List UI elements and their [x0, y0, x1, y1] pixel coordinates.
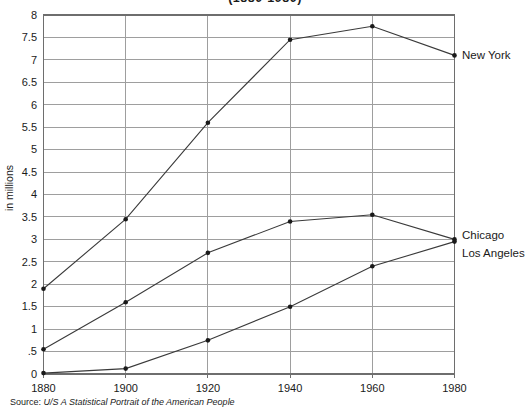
data-point-marker — [206, 251, 211, 256]
series-label: New York — [462, 48, 511, 62]
y-tick-label: 1.5 — [22, 300, 37, 312]
x-tick-label: 1960 — [360, 382, 384, 394]
data-point-marker — [370, 24, 375, 29]
data-point-marker — [452, 53, 457, 58]
data-point-marker — [288, 304, 293, 309]
y-tick-label: 3 — [31, 233, 37, 245]
line-chart-plot: 0.511.522.533.544.555.566.577.5818801900… — [0, 0, 527, 412]
data-point-marker — [123, 217, 128, 222]
series-line — [44, 26, 455, 289]
y-tick-label: 4 — [31, 188, 37, 200]
y-tick-label: 7 — [31, 54, 37, 66]
y-tick-label: .5 — [28, 345, 37, 357]
source-note: Source: U/S A Statistical Portrait of th… — [10, 397, 235, 407]
y-tick-label: 5.5 — [22, 121, 37, 133]
data-point-marker — [41, 286, 46, 291]
y-tick-label: 0 — [31, 368, 37, 380]
data-point-marker — [206, 120, 211, 125]
y-tick-label: 8 — [31, 9, 37, 21]
source-prefix: Source: — [10, 397, 41, 407]
data-point-marker — [288, 37, 293, 42]
y-tick-label: 4.5 — [22, 166, 37, 178]
x-tick-label: 1900 — [113, 382, 137, 394]
series-label: Chicago — [462, 228, 504, 242]
chart-figure: (1880-1980) in millions 0.511.522.533.54… — [0, 0, 527, 412]
series-label: Los Angeles — [462, 246, 525, 260]
data-point-marker — [452, 239, 457, 244]
data-point-marker — [206, 338, 211, 343]
y-tick-label: 2.5 — [22, 256, 37, 268]
y-tick-label: 3.5 — [22, 211, 37, 223]
data-point-marker — [288, 219, 293, 224]
data-point-marker — [370, 212, 375, 217]
y-tick-label: 1 — [31, 323, 37, 335]
data-point-marker — [41, 371, 46, 376]
data-point-marker — [123, 366, 128, 371]
y-tick-label: 6.5 — [22, 76, 37, 88]
x-tick-label: 1980 — [442, 382, 466, 394]
y-tick-label: 2 — [31, 278, 37, 290]
data-point-marker — [123, 300, 128, 305]
y-tick-label: 6 — [31, 99, 37, 111]
x-tick-label: 1920 — [196, 382, 220, 394]
source-title: U/S A Statistical Portrait of the Americ… — [44, 397, 235, 407]
x-tick-label: 1940 — [278, 382, 302, 394]
data-point-marker — [41, 347, 46, 352]
data-point-marker — [370, 264, 375, 269]
x-tick-label: 1880 — [31, 382, 55, 394]
y-tick-label: 7.5 — [22, 31, 37, 43]
y-tick-label: 5 — [31, 143, 37, 155]
